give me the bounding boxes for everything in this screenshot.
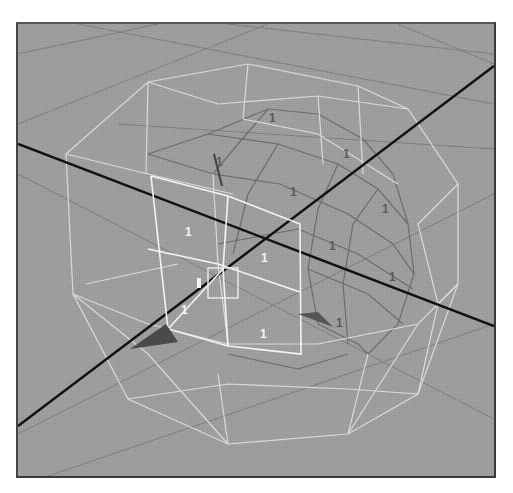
weight-label: 1 [336,316,343,330]
weight-label: 1 [269,111,276,125]
weight-label: 1 [185,225,192,239]
weight-label: 1 [382,202,389,216]
scene-canvas[interactable]: 11111111 1111 [18,24,494,476]
weight-label: 1 [216,155,223,169]
weight-label: 1 [260,327,267,341]
weight-label: 1 [329,239,336,253]
weight-label: 1 [181,303,188,317]
viewport-background [18,24,494,476]
weight-label: 1 [290,185,297,199]
weight-label: 1 [261,251,268,265]
pivot-marker-icon [197,278,201,288]
weight-label: 1 [389,270,396,284]
3d-viewport[interactable]: 11111111 1111 [16,22,496,478]
weight-label: 1 [343,147,350,161]
